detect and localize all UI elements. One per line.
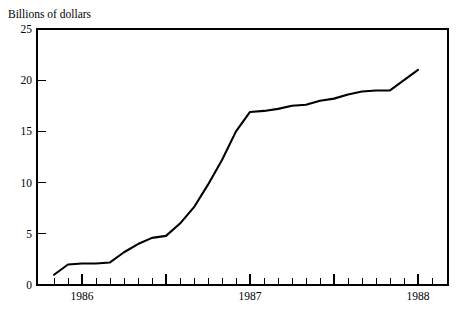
x-tick-label: 1988: [407, 290, 430, 302]
line-chart: Billions of dollars 0510152025 198619871…: [0, 0, 471, 313]
chart-background: [0, 0, 471, 313]
x-tick-label: 1987: [239, 290, 262, 302]
y-tick-label: 25: [21, 23, 33, 35]
y-tick-label: 5: [26, 228, 32, 240]
y-tick-label: 10: [21, 177, 33, 189]
x-tick-label: 1986: [71, 290, 94, 302]
y-tick-label: 15: [21, 125, 33, 137]
chart-figure: Billions of dollars 0510152025 198619871…: [0, 0, 471, 313]
y-tick-label: 20: [21, 74, 33, 86]
y-tick-label: 0: [26, 279, 32, 291]
y-axis-title: Billions of dollars: [8, 8, 92, 20]
